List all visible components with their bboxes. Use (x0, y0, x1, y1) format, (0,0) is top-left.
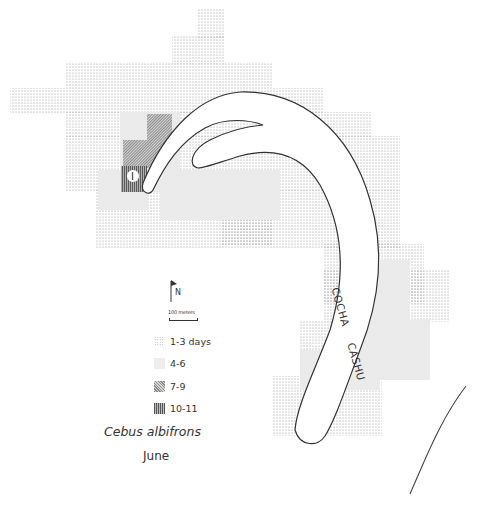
river-bank-line (410, 386, 466, 494)
site-marker-label: I (131, 171, 134, 182)
lake-cocha-cashu (142, 92, 378, 444)
north-arrow-icon (171, 280, 177, 302)
range-map: I (0, 0, 481, 509)
